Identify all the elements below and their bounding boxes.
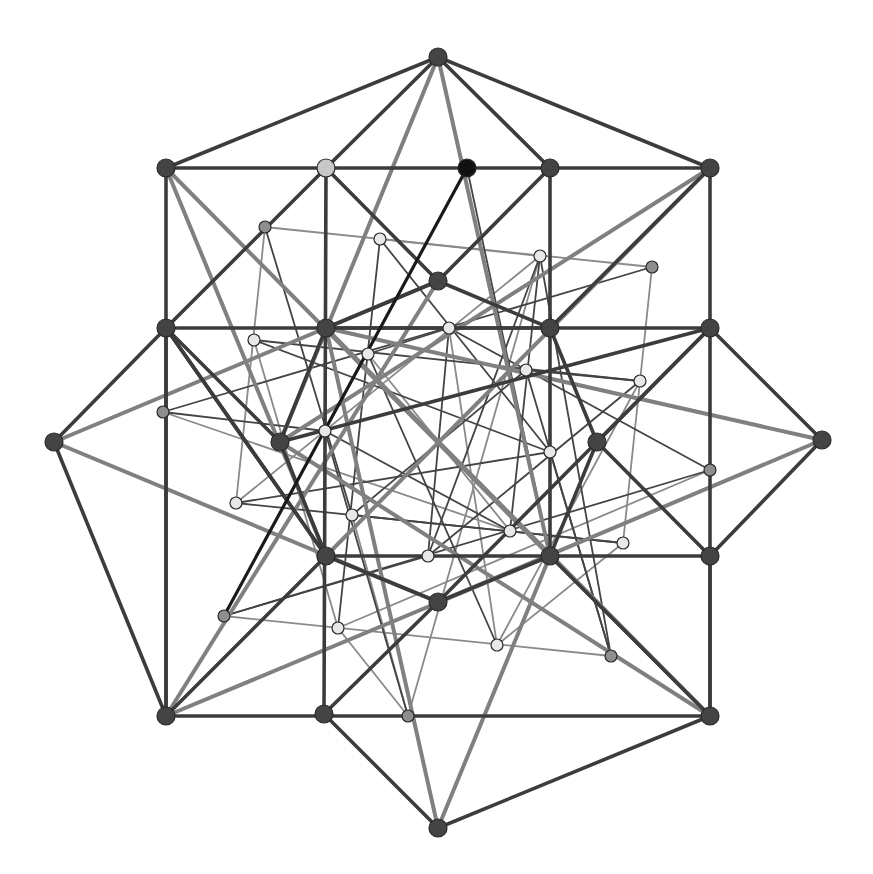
node-s3 (157, 406, 169, 418)
node-g-l2 (317, 319, 335, 337)
node-bot-b (402, 710, 414, 722)
node-w13 (617, 537, 629, 549)
node-w11 (346, 509, 358, 521)
node-w16 (491, 639, 503, 651)
node-corner-tl (157, 159, 175, 177)
node-corner-tr (701, 159, 719, 177)
node-s5 (218, 610, 230, 622)
graph-diagram (0, 0, 873, 874)
node-w7 (634, 375, 646, 387)
node-tip-right (813, 431, 831, 449)
node-mid-left (271, 433, 289, 451)
node-corner-br (701, 707, 719, 725)
node-s2 (646, 261, 658, 273)
edge-top-a-bot-a (324, 168, 326, 714)
node-w14 (422, 550, 434, 562)
node-tip-left (45, 433, 63, 451)
node-mid-right (588, 433, 606, 451)
node-w1 (374, 233, 386, 245)
node-g-l1 (157, 319, 175, 337)
node-w15 (332, 622, 344, 634)
node-w4 (443, 322, 455, 334)
node-s4 (704, 464, 716, 476)
node-w8 (319, 425, 331, 437)
node-top-b (458, 159, 476, 177)
node-tip-bottom (429, 819, 447, 837)
node-w6 (520, 364, 532, 376)
node-g-r1 (701, 319, 719, 337)
node-tip-top (429, 48, 447, 66)
node-mid-bottom (429, 593, 447, 611)
node-w2 (534, 250, 546, 262)
node-top-a (317, 159, 335, 177)
node-mid-top (429, 272, 447, 290)
node-s6 (605, 650, 617, 662)
node-bot-a (315, 705, 333, 723)
node-w12 (504, 525, 516, 537)
node-corner-bl (157, 707, 175, 725)
node-top-c (541, 159, 559, 177)
node-w5 (362, 348, 374, 360)
node-g-bl2 (317, 547, 335, 565)
node-g-br2 (541, 547, 559, 565)
node-g-r2 (541, 319, 559, 337)
node-w10 (230, 497, 242, 509)
node-w9 (544, 446, 556, 458)
node-g-br1 (701, 547, 719, 565)
node-w3 (248, 334, 260, 346)
node-s1 (259, 221, 271, 233)
